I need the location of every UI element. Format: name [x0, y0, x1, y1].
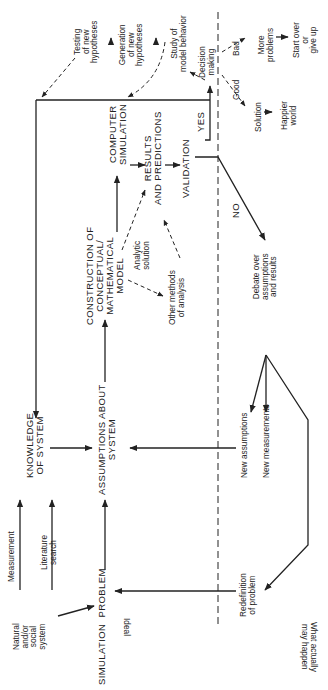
label-no: NO [231, 203, 241, 218]
label-knowledge-of-system: KNOWLEDGE OF SYSTEM [25, 413, 45, 478]
label-assumptions-about-system: ASSUMPTIONS ABOUT SYSTEM [97, 384, 117, 495]
zone-label-actual: What actually may happen [301, 622, 318, 672]
label-happier-world: Happier world [280, 101, 297, 130]
label-yes: YES [196, 112, 206, 132]
label-validation: VALIDATION [181, 139, 191, 198]
label-literature-search: Literature search [40, 535, 57, 570]
label-measurement: Measurement [7, 531, 16, 582]
label-study-model-behavior: Study of model behavior [170, 15, 187, 72]
label-redefinition: Redefinition of problem [239, 573, 256, 617]
label-computer-simulation: COMPUTER SIMULATION [108, 104, 128, 165]
label-other-methods: Other methods of analysis [168, 270, 185, 325]
label-results-predictions: RESULTS AND PREDICTIONS [143, 111, 163, 205]
label-generation-hypotheses: Generation of new hypotheses [118, 24, 144, 66]
label-new-assumptions: New assumptions [240, 413, 249, 478]
label-testing-hypotheses: Testing of new hypotheses [73, 21, 99, 63]
label-bad: Bad [232, 41, 241, 56]
label-decision-making: Decision making [198, 46, 215, 78]
label-new-measurements: New measurements [262, 404, 271, 478]
label-good: Good [232, 80, 241, 100]
label-solution: Solution [254, 102, 263, 132]
label-debate: Debate over assumptions and results [252, 253, 278, 300]
label-more-problems: More problems [257, 28, 274, 62]
label-natural-system: Natural and/or social system [12, 623, 47, 650]
label-analytic-solution: Analytic solution [133, 241, 150, 270]
label-simulation-problem: SIMULATION PROBLEM [97, 568, 107, 685]
label-construction-model: CONSTRUCTION OF CONCEPTUAL/ MATHEMATICAL… [85, 227, 125, 325]
zone-label-ideal: Ideal [122, 618, 131, 636]
label-start-over: Start over or give up [292, 22, 318, 58]
